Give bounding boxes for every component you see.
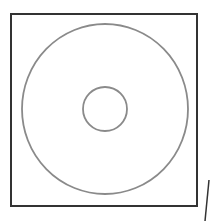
disc-sketch (0, 0, 213, 221)
outer-circle (22, 24, 188, 194)
outer-square (11, 14, 197, 206)
stray-pen-stroke (205, 180, 209, 221)
inner-circle (83, 87, 127, 131)
